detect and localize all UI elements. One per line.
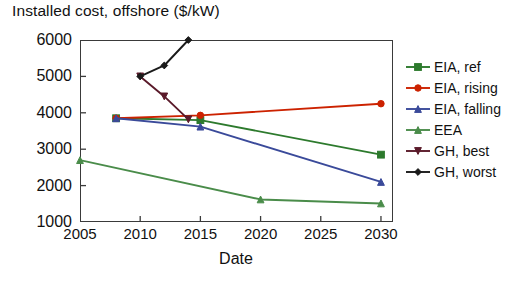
x-axis-title: Date [219,250,253,268]
x-tick-label: 2015 [184,226,217,241]
legend-marker-icon [405,81,431,95]
legend-item[interactable]: GH, worst [405,161,521,182]
x-tick-label: 2025 [304,226,337,241]
legend-marker-icon [405,102,431,116]
legend-label: GH, worst [434,165,496,179]
legend-item[interactable]: EIA, rising [405,77,521,98]
x-tick-label: 2030 [364,226,397,241]
legend-item[interactable]: GH, best [405,140,521,161]
legend-label: GH, best [434,144,489,158]
legend-item[interactable]: EIA, falling [405,98,521,119]
legend-label: EIA, rising [434,81,498,95]
legend-item[interactable]: EIA, ref [405,56,521,77]
legend-marker-icon [405,123,431,137]
x-tick-label: 2010 [124,226,157,241]
legend-item[interactable]: EEA [405,119,521,140]
legend-marker-icon [405,60,431,74]
x-tick-label: 2020 [244,226,277,241]
x-tick-label: 2005 [63,226,96,241]
legend-label: EIA, ref [434,60,481,74]
chart-legend: EIA, refEIA, risingEIA, fallingEEAGH, be… [405,56,521,182]
legend-marker-icon [405,144,431,158]
legend-marker-icon [405,165,431,179]
legend-label: EIA, falling [434,102,501,116]
legend-label: EEA [434,123,462,137]
